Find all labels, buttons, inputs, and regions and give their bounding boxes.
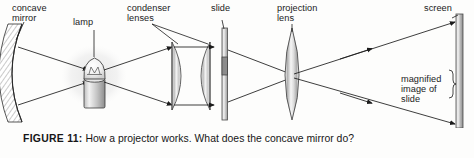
slide-shape <box>222 28 228 120</box>
label-projection-lens: projection lens <box>277 3 317 23</box>
label-magnified-image-of-slide: magnified image of slide <box>401 74 441 105</box>
label-screen: screen <box>424 3 452 13</box>
projection-lens-shape <box>285 28 299 120</box>
figure-container: concave mirror lamp condenser lenses sli… <box>0 0 474 158</box>
concave-mirror-shape <box>0 24 22 122</box>
projector-ray-diagram <box>0 0 474 128</box>
label-concave-mirror: concave mirror <box>12 3 47 23</box>
figure-caption-text: How a projector works. What does the con… <box>83 133 354 144</box>
magnified-image-brace <box>449 70 456 98</box>
ray-group-projection-to-screen <box>294 22 455 124</box>
condenser-lens-first <box>172 42 181 110</box>
label-condenser-lenses: condenser lenses <box>127 3 170 23</box>
ray-arrow-midpoints <box>340 49 372 104</box>
figure-caption-label: FIGURE 11: <box>23 133 83 144</box>
condenser-lens-second <box>201 42 210 110</box>
label-lamp: lamp <box>73 17 93 27</box>
figure-caption: FIGURE 11: How a projector works. What d… <box>23 133 354 144</box>
lamp-shape <box>84 58 105 108</box>
screen-shape <box>456 14 463 128</box>
label-slide: slide <box>211 3 230 13</box>
